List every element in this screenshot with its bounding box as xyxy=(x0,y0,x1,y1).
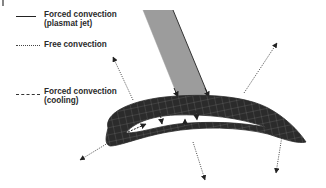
legend-label-forced-jet: Forced convection (plasmat jet) xyxy=(44,10,117,28)
legend-label-free: Free convection xyxy=(44,40,107,49)
legend-label-line2: (plasmat jet) xyxy=(44,19,117,28)
legend-swatch-solid xyxy=(16,16,36,17)
legend-label-line1: Free convection xyxy=(44,40,107,49)
legend-label-line1: Forced convection xyxy=(44,10,117,19)
legend-label-line2: (cooling) xyxy=(44,96,117,105)
plasma-jet xyxy=(143,10,209,97)
airfoil-blade xyxy=(106,95,306,146)
legend-swatch-dashed xyxy=(16,94,40,95)
legend-swatch-dotted xyxy=(16,45,40,46)
legend-label-line1: Forced convection xyxy=(44,87,117,96)
legend-label-forced-cooling: Forced convection (cooling) xyxy=(44,87,117,105)
